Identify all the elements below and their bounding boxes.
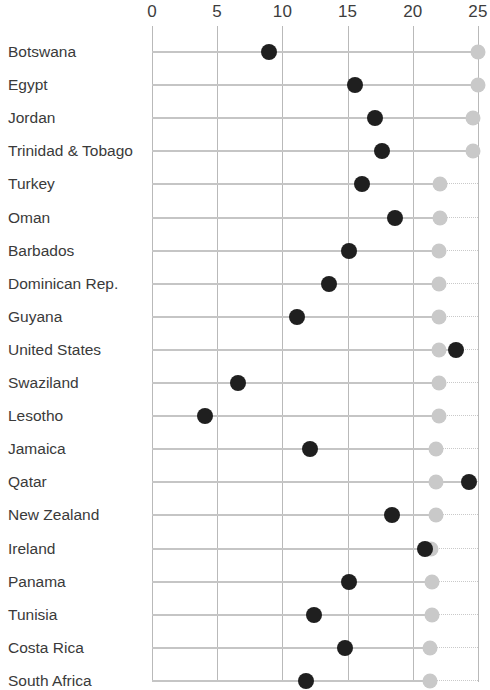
row-connector-line <box>152 647 430 649</box>
light-marker-dot <box>431 409 446 424</box>
light-marker-dot <box>425 574 440 589</box>
category-label-turkey: Turkey <box>8 175 55 193</box>
category-label-south-africa: South Africa <box>8 672 92 690</box>
category-label-trinidad-tobago: Trinidad & Tobago <box>8 142 133 160</box>
gridline-0 <box>152 26 153 682</box>
category-label-egypt: Egypt <box>8 76 48 94</box>
light-marker-dot <box>431 243 446 258</box>
gridline-25 <box>478 26 479 682</box>
row-connector-line <box>152 283 439 285</box>
light-marker-dot <box>422 640 437 655</box>
category-label-jamaica: Jamaica <box>8 440 66 458</box>
dark-marker-dot <box>197 408 213 424</box>
light-marker-dot <box>433 210 448 225</box>
category-label-panama: Panama <box>8 573 66 591</box>
row-connector-line <box>152 680 430 682</box>
category-label-barbados: Barbados <box>8 242 74 260</box>
dark-marker-dot <box>384 507 400 523</box>
category-label-united-states: United States <box>8 341 101 359</box>
dark-marker-dot <box>341 574 357 590</box>
x-tick-label-25: 25 <box>468 2 487 22</box>
category-label-costa-rica: Costa Rica <box>8 639 84 657</box>
category-label-ireland: Ireland <box>8 540 55 558</box>
row-connector-line <box>152 250 439 252</box>
dark-marker-dot <box>354 176 370 192</box>
row-connector-line <box>152 548 431 550</box>
dark-marker-dot <box>367 110 383 126</box>
dark-marker-dot <box>261 44 277 60</box>
row-connector-line <box>152 614 432 616</box>
category-label-qatar: Qatar <box>8 473 47 491</box>
category-label-oman: Oman <box>8 209 50 227</box>
dark-marker-dot <box>387 210 403 226</box>
dark-marker-dot <box>298 673 314 689</box>
dark-marker-dot <box>321 276 337 292</box>
dark-marker-dot <box>374 143 390 159</box>
dark-marker-dot <box>417 541 433 557</box>
x-tick-label-10: 10 <box>273 2 292 22</box>
dark-marker-dot <box>337 640 353 656</box>
light-marker-dot <box>429 508 444 523</box>
gridline-5 <box>217 26 218 682</box>
row-connector-line <box>152 581 432 583</box>
row-connector-line <box>152 150 473 152</box>
light-marker-dot <box>471 45 486 60</box>
dark-marker-dot <box>341 243 357 259</box>
gridline-20 <box>413 26 414 682</box>
category-label-dominican-rep: Dominican Rep. <box>8 275 118 293</box>
dark-marker-dot <box>230 375 246 391</box>
category-axis-labels: BotswanaEgyptJordanTrinidad & TobagoTurk… <box>0 26 146 682</box>
light-marker-dot <box>422 673 437 688</box>
category-label-guyana: Guyana <box>8 308 62 326</box>
row-connector-line <box>152 51 478 53</box>
x-tick-label-20: 20 <box>403 2 422 22</box>
row-connector-line <box>152 382 439 384</box>
x-axis-tick-labels: 0510152025 <box>0 0 490 26</box>
row-connector-line <box>152 183 440 185</box>
row-connector-line <box>152 481 469 483</box>
dark-marker-dot <box>289 309 305 325</box>
light-marker-dot <box>431 276 446 291</box>
light-marker-dot <box>429 475 444 490</box>
x-tick-label-15: 15 <box>338 2 357 22</box>
dark-marker-dot <box>302 441 318 457</box>
dark-marker-dot <box>448 342 464 358</box>
light-marker-dot <box>431 342 446 357</box>
category-label-tunisia: Tunisia <box>8 606 57 624</box>
category-label-lesotho: Lesotho <box>8 407 63 425</box>
category-label-jordan: Jordan <box>8 109 55 127</box>
light-marker-dot <box>433 177 448 192</box>
row-connector-line <box>152 415 439 417</box>
row-connector-line <box>152 349 456 351</box>
category-label-botswana: Botswana <box>8 43 76 61</box>
category-label-new-zealand: New Zealand <box>8 506 99 524</box>
light-marker-dot <box>431 309 446 324</box>
light-marker-dot <box>429 442 444 457</box>
plot-area: BotswanaEgyptJordanTrinidad & TobagoTurk… <box>0 26 490 682</box>
light-marker-dot <box>465 111 480 126</box>
row-connector-line <box>152 84 478 86</box>
light-marker-dot <box>431 376 446 391</box>
category-label-swaziland: Swaziland <box>8 374 79 392</box>
light-marker-dot <box>465 144 480 159</box>
row-connector-line <box>152 448 436 450</box>
dark-marker-dot <box>306 607 322 623</box>
light-marker-dot <box>471 78 486 93</box>
light-marker-dot <box>425 607 440 622</box>
row-connector-line <box>152 117 473 119</box>
gridline-10 <box>282 26 283 682</box>
x-tick-label-5: 5 <box>212 2 222 22</box>
dark-marker-dot <box>461 474 477 490</box>
dark-marker-dot <box>347 77 363 93</box>
x-tick-label-0: 0 <box>147 2 157 22</box>
